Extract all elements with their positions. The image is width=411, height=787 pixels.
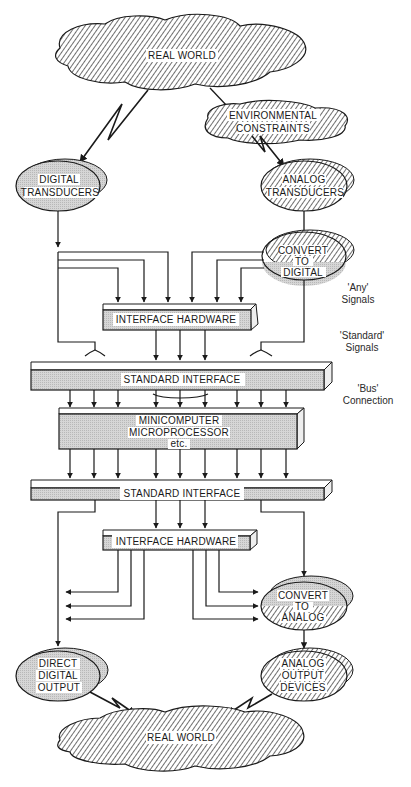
interface-hardware-bottom-label: INTERFACE HARDWARE [116, 536, 237, 547]
analog-output-devices-label-2: OUTPUT [282, 670, 324, 681]
digital-transducers-label-1: DIGITAL [39, 174, 79, 185]
analog-output-devices-label-3: DEVICES [280, 682, 325, 693]
real-world-cloud-bottom: REAL WORLD [58, 706, 304, 771]
computer-label-1: MINICOMPUTER [139, 415, 220, 426]
output-signal-lines [66, 550, 258, 619]
minicomputer-block: MINICOMPUTER MICROPROCESSOR etc. [59, 408, 304, 449]
standard-interface-top: STANDARD INTERFACE [31, 362, 332, 390]
analog-output-devices-label-1: ANALOG [282, 658, 325, 669]
standard-interface-bottom-label: STANDARD INTERFACE [124, 488, 241, 499]
digital-transducers-label-2: TRANSDUCERS [21, 187, 99, 198]
bus-connection-label-1: 'Bus' [357, 383, 378, 394]
convert-to-analog-label-2: TO [295, 601, 309, 612]
bus-lines-bottom [70, 449, 286, 478]
any-signals-label-2: Signals [342, 294, 375, 305]
digital-transducers-node: DIGITAL TRANSDUCERS [16, 159, 107, 211]
convert-to-digital-label-2: TO [295, 256, 309, 267]
real-world-bottom-label: REAL WORLD [147, 732, 215, 743]
any-signals-label-1: 'Any' [347, 282, 368, 293]
interface-hardware-bottom: INTERFACE HARDWARE [103, 530, 257, 550]
system-diagram: REAL WORLD ENVIRONMENTAL CONSTRAINTS DIG… [0, 0, 411, 787]
interface-hardware-top: INTERFACE HARDWARE [103, 304, 258, 330]
standard-interface-bottom: STANDARD INTERFACE [31, 480, 332, 500]
convert-to-digital-label-1: CONVERT [278, 245, 328, 256]
environmental-label-2: CONSTRAINTS [236, 123, 310, 134]
bus-connection-label-2: Connection [343, 395, 394, 406]
standard-signals-label-1: 'Standard' [340, 330, 384, 341]
computer-label-2: MICROPROCESSOR [129, 427, 229, 438]
wireless-link-digital [80, 90, 148, 162]
bus-lines-top [70, 390, 286, 407]
convert-to-digital-label-3: DIGITAL [283, 267, 323, 278]
convert-to-analog-node: CONVERT TO ANALOG [261, 576, 353, 630]
real-world-top-label: REAL WORLD [148, 50, 216, 61]
analog-transducers-node: ANALOG TRANSDUCERS [261, 159, 354, 211]
direct-digital-output-label-1: DIRECT [39, 658, 77, 669]
side-labels: 'Any' Signals 'Standard' Signals 'Bus' C… [340, 282, 394, 406]
computer-label-3: etc. [171, 438, 188, 449]
convert-to-digital-node: CONVERT TO DIGITAL [262, 230, 354, 286]
convert-to-analog-label-3: ANALOG [282, 612, 325, 623]
environmental-constraints-cloud: ENVIRONMENTAL CONSTRAINTS [205, 101, 347, 144]
analog-transducers-label-1: ANALOG [283, 174, 326, 185]
standard-interface-top-label: STANDARD INTERFACE [124, 374, 241, 385]
standard-signals-label-2: Signals [346, 342, 379, 353]
direct-digital-output-label-3: OUTPUT [38, 682, 80, 693]
convert-to-analog-label-1: CONVERT [278, 590, 328, 601]
analog-transducers-label-2: TRANSDUCERS [266, 187, 344, 198]
environmental-label-1: ENVIRONMENTAL [229, 110, 317, 121]
direct-digital-output-label-2: DIGITAL [38, 670, 78, 681]
real-world-cloud-top: REAL WORLD [56, 14, 306, 89]
analog-output-devices-node: ANALOG OUTPUT DEVICES [261, 648, 353, 701]
direct-digital-output-node: DIRECT DIGITAL OUTPUT [16, 648, 108, 701]
interface-hardware-top-label: INTERFACE HARDWARE [116, 314, 237, 325]
